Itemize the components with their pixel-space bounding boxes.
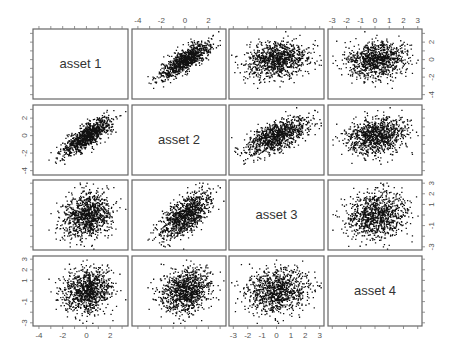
svg-text:-3: -3 [20, 319, 29, 327]
svg-text:-4: -4 [427, 91, 436, 99]
top-axis-col2: -4-202 [134, 16, 220, 29]
svg-text:0: 0 [274, 331, 279, 340]
svg-text:2: 2 [206, 16, 211, 25]
svg-text:2: 2 [303, 331, 308, 340]
svg-text:2: 2 [20, 115, 29, 120]
svg-text:0: 0 [427, 57, 436, 62]
svg-text:1: 1 [289, 331, 294, 340]
scatterplot-matrix: -4-202-3-2-10123-4-202-3-2-1012320-2-432… [0, 0, 455, 352]
svg-text:-3: -3 [230, 331, 238, 340]
svg-text:2: 2 [427, 191, 436, 196]
diag-label-asset-3: asset 3 [229, 207, 324, 222]
panel-r3-c1 [33, 180, 128, 250]
left-axis-row2: 20-2-4 [20, 109, 33, 174]
svg-text:-4: -4 [134, 16, 142, 25]
svg-text:-2: -2 [343, 16, 351, 25]
svg-text:-2: -2 [20, 149, 29, 157]
svg-text:-1: -1 [427, 222, 436, 230]
panel-r2-c3 [229, 105, 324, 175]
left-axis-row4: 321-1-3 [20, 256, 33, 326]
svg-text:-2: -2 [158, 16, 166, 25]
svg-text:-4: -4 [35, 331, 43, 340]
svg-text:-1: -1 [357, 16, 365, 25]
svg-text:-3: -3 [427, 243, 436, 251]
svg-text:0: 0 [20, 133, 29, 138]
bottom-axis-col1: -4-202 [35, 326, 122, 340]
panel-r3-c4 [328, 180, 422, 250]
top-axis-col4: -3-2-10123 [329, 16, 421, 29]
diag-label-asset-2: asset 2 [132, 132, 226, 147]
svg-text:3: 3 [416, 16, 421, 25]
diag-label-asset-4: asset 4 [328, 283, 422, 298]
svg-text:3: 3 [317, 331, 322, 340]
right-axis-row3: 321-1-3 [422, 180, 436, 250]
svg-text:0: 0 [183, 16, 188, 25]
svg-text:-3: -3 [329, 16, 337, 25]
svg-text:-2: -2 [244, 331, 252, 340]
svg-text:-4: -4 [20, 167, 29, 175]
svg-text:1: 1 [427, 202, 436, 207]
svg-text:2: 2 [108, 331, 113, 340]
right-axis-row1: 20-2-4 [422, 33, 436, 98]
svg-text:-2: -2 [59, 331, 67, 340]
panel-r1-c2 [132, 29, 226, 99]
svg-text:1: 1 [387, 16, 392, 25]
panel-r1-c3 [229, 29, 324, 99]
bottom-axis-col3: -3-2-10123 [230, 326, 323, 340]
panel-r2-c1 [33, 105, 128, 175]
svg-text:2: 2 [20, 267, 29, 272]
svg-text:0: 0 [373, 16, 378, 25]
diag-label-asset-1: asset 1 [33, 56, 128, 71]
svg-text:0: 0 [84, 331, 89, 340]
panel-r1-c4 [328, 29, 422, 99]
svg-text:-2: -2 [427, 73, 436, 81]
svg-text:2: 2 [427, 39, 436, 44]
panel-r2-c4 [328, 105, 422, 175]
svg-text:1: 1 [20, 278, 29, 283]
panel-r3-c2 [132, 180, 226, 250]
svg-text:3: 3 [20, 256, 29, 261]
svg-text:-1: -1 [20, 298, 29, 306]
svg-text:-1: -1 [259, 331, 267, 340]
svg-text:2: 2 [401, 16, 406, 25]
panel-r4-c1 [33, 256, 128, 326]
panel-r4-c3 [229, 256, 324, 326]
panel-r4-c2 [132, 256, 226, 326]
svg-text:3: 3 [427, 180, 436, 185]
